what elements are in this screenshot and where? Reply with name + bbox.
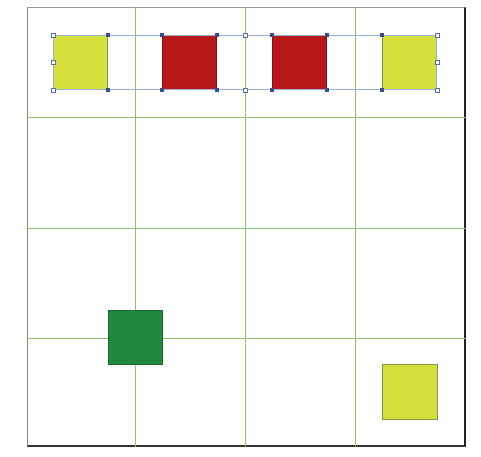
- resize-handle[interactable]: [51, 60, 56, 65]
- resize-handle[interactable]: [243, 88, 248, 93]
- selection-bounding-box[interactable]: [53, 35, 437, 90]
- anchor-point[interactable]: [106, 88, 110, 92]
- grid-line-horizontal-3: [27, 338, 466, 339]
- yellow-square-3[interactable]: [382, 364, 438, 420]
- anchor-point[interactable]: [380, 33, 384, 37]
- grid-line-horizontal-1: [27, 117, 466, 118]
- anchor-point[interactable]: [270, 33, 274, 37]
- anchor-point[interactable]: [325, 33, 329, 37]
- resize-handle[interactable]: [435, 33, 440, 38]
- resize-handle[interactable]: [435, 88, 440, 93]
- anchor-point[interactable]: [325, 88, 329, 92]
- grid-line-horizontal-2: [27, 228, 466, 229]
- anchor-point[interactable]: [380, 88, 384, 92]
- anchor-point[interactable]: [215, 33, 219, 37]
- anchor-point[interactable]: [160, 88, 164, 92]
- resize-handle[interactable]: [51, 33, 56, 38]
- anchor-point[interactable]: [160, 33, 164, 37]
- anchor-point[interactable]: [106, 33, 110, 37]
- anchor-point[interactable]: [270, 88, 274, 92]
- resize-handle[interactable]: [51, 88, 56, 93]
- anchor-point[interactable]: [215, 88, 219, 92]
- green-square[interactable]: [108, 310, 163, 365]
- resize-handle[interactable]: [435, 60, 440, 65]
- resize-handle[interactable]: [243, 33, 248, 38]
